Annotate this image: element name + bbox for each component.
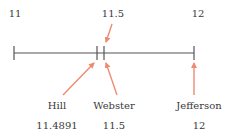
marker-name-webster: Webster xyxy=(93,100,135,112)
marker-value-webster: 11.5 xyxy=(103,120,125,132)
marker-value-hill: 11.4891 xyxy=(36,120,77,132)
marker-value-jefferson: 12 xyxy=(193,120,206,132)
arrow-hill-icon xyxy=(63,63,94,95)
marker-name-hill: Hill xyxy=(48,100,66,112)
number-line-graphic xyxy=(0,0,228,138)
arrow-midpoint-icon xyxy=(106,24,112,42)
arrow-webster-icon xyxy=(106,63,117,95)
marker-name-jefferson: Jefferson xyxy=(176,100,221,112)
